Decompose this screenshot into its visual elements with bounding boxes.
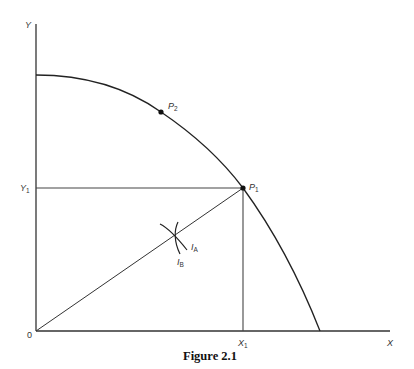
y-axis-label: Y bbox=[25, 20, 32, 30]
p2-label: P2 bbox=[168, 101, 178, 112]
production-possibility-diagram: Y X 0 P2 P1 Y1 X1 IA IB Figure 2.1 bbox=[0, 0, 414, 369]
indifference-curve-a bbox=[160, 224, 187, 250]
y1-label: Y1 bbox=[20, 183, 30, 194]
p1-label: P1 bbox=[249, 182, 259, 193]
ia-label: IA bbox=[191, 242, 199, 253]
figure-caption: Figure 2.1 bbox=[183, 349, 237, 363]
ib-label: IB bbox=[177, 257, 184, 268]
x1-label: X1 bbox=[237, 338, 248, 349]
point-p1-marker bbox=[240, 185, 245, 190]
origin-label: 0 bbox=[27, 330, 32, 340]
x-axis-label: X bbox=[386, 338, 394, 348]
point-p2-marker bbox=[158, 109, 163, 114]
ppf-curve bbox=[36, 75, 320, 331]
expansion-ray bbox=[36, 188, 243, 331]
